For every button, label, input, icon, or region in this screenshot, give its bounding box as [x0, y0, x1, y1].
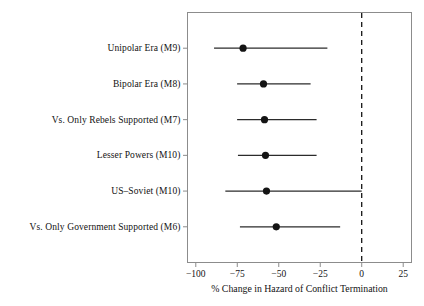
x-tick-label: −100 — [186, 269, 206, 279]
point-estimate-marker — [263, 187, 270, 194]
x-tick-label: 0 — [359, 269, 364, 279]
x-tick-label: −50 — [271, 269, 286, 279]
category-label: Vs. Only Rebels Supported (M7) — [52, 115, 181, 125]
category-label: Unipolar Era (M9) — [108, 43, 181, 53]
point-estimate-marker — [261, 116, 268, 123]
x-tick-label: −25 — [313, 269, 328, 279]
category-label: Bipolar Era (M8) — [113, 79, 181, 89]
x-tick-label: −75 — [230, 269, 245, 279]
point-estimate-marker — [262, 152, 269, 159]
point-estimate-marker — [239, 45, 246, 52]
x-axis-ticks — [196, 263, 403, 268]
x-axis-title: % Change in Hazard of Conflict Terminati… — [187, 283, 412, 294]
point-estimate-marker — [260, 80, 267, 87]
point-estimate-marker — [273, 223, 280, 230]
plot-canvas — [0, 0, 424, 306]
category-label: Vs. Only Government Supported (M6) — [30, 222, 181, 232]
category-label: US–Soviet (M10) — [111, 186, 180, 196]
y-axis-ticks — [183, 48, 188, 227]
plot-frame — [188, 13, 412, 263]
forest-plot-figure: Unipolar Era (M9)Bipolar Era (M8)Vs. Onl… — [0, 0, 424, 306]
category-label: Lesser Powers (M10) — [97, 150, 181, 160]
x-tick-label: 25 — [398, 269, 408, 279]
